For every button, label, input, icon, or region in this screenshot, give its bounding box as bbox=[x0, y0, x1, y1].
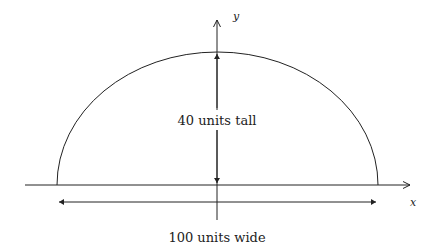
height-annotation: 40 units tall bbox=[178, 113, 257, 128]
x-axis-label: x bbox=[410, 196, 417, 209]
diagram-canvas: y x 40 units tall 100 units wide bbox=[0, 0, 438, 252]
y-axis-label: y bbox=[232, 10, 240, 23]
width-annotation: 100 units wide bbox=[168, 230, 265, 245]
